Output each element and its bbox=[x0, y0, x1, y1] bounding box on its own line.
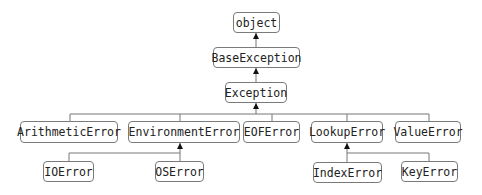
node-io-error: IOError bbox=[43, 161, 94, 182]
arrowhead-icon bbox=[344, 143, 350, 149]
node-value-error: ValueError bbox=[395, 121, 461, 143]
node-lookup-error: LookupError bbox=[311, 121, 383, 143]
arrowhead-icon bbox=[253, 103, 259, 109]
node-arithmetic-error: ArithmeticError bbox=[20, 121, 118, 143]
node-os-error: OSError bbox=[155, 161, 204, 182]
arrowhead-icon bbox=[177, 143, 183, 149]
node-environment-error: EnvironmentError bbox=[128, 121, 240, 143]
node-base-exception: BaseException bbox=[213, 47, 300, 68]
class-hierarchy-diagram: object BaseException Exception Arithmeti… bbox=[0, 0, 482, 195]
node-object: object bbox=[233, 12, 280, 33]
node-key-error: KeyError bbox=[401, 161, 458, 182]
node-eof-error: EOFError bbox=[243, 121, 300, 143]
arrowhead-icon bbox=[253, 68, 259, 74]
node-exception: Exception bbox=[225, 82, 287, 103]
node-index-error: IndexError bbox=[313, 162, 382, 183]
arrowhead-icon bbox=[253, 33, 259, 39]
